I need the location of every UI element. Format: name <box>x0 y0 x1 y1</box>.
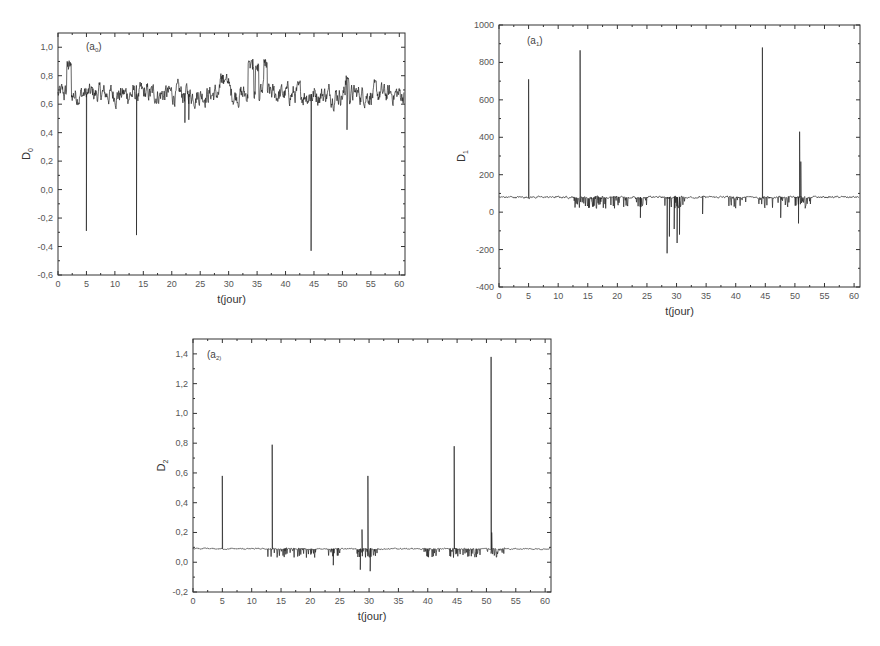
panel-label: (a2) <box>207 349 221 361</box>
x-tick-label: 5 <box>84 279 89 289</box>
x-tick-label: 50 <box>481 596 491 606</box>
y-tick-label: 200 <box>479 170 494 180</box>
y-tick-label: -0,2 <box>37 213 53 223</box>
x-tick-label: 60 <box>849 291 859 301</box>
y-tick-label: 0,4 <box>40 128 53 138</box>
x-tick-label: 20 <box>305 596 315 606</box>
chart-a2: 051015202530354045505560-0,20,00,20,40,6… <box>155 339 551 622</box>
y-tick-label: 400 <box>479 132 494 142</box>
panel-label: (a0) <box>86 41 102 53</box>
y-tick-label: 0,4 <box>175 498 188 508</box>
x-tick-label: 30 <box>672 291 682 301</box>
x-tick-label: 5 <box>526 291 531 301</box>
x-tick-label: 45 <box>760 291 770 301</box>
y-tick-label: 1000 <box>474 20 494 30</box>
x-tick-label: 60 <box>540 596 550 606</box>
x-axis-title: t(jour) <box>358 610 387 622</box>
x-tick-label: 15 <box>138 279 148 289</box>
y-axis-title: D1 <box>455 150 469 162</box>
x-tick-label: 25 <box>335 596 345 606</box>
y-tick-label: 1,4 <box>175 349 188 359</box>
y-tick-label: 0,0 <box>40 185 53 195</box>
chart-a0: 051015202530354045505560-0,6-0,4-0,20,00… <box>20 33 405 305</box>
y-tick-label: -0,4 <box>37 242 53 252</box>
x-tick-label: 10 <box>110 279 120 289</box>
y-tick-label: 0,2 <box>40 156 53 166</box>
x-tick-label: 40 <box>423 596 433 606</box>
x-tick-label: 20 <box>167 279 177 289</box>
y-tick-label: 0,6 <box>175 468 188 478</box>
panel-label: (a1) <box>527 35 543 47</box>
x-tick-label: 30 <box>224 279 234 289</box>
x-tick-label: 35 <box>393 596 403 606</box>
y-tick-label: 1,0 <box>40 42 53 52</box>
x-tick-label: 0 <box>190 596 195 606</box>
x-tick-label: 15 <box>583 291 593 301</box>
x-tick-label: 10 <box>553 291 563 301</box>
x-tick-label: 25 <box>195 279 205 289</box>
y-tick-label: -200 <box>476 245 494 255</box>
figure: 051015202530354045505560-0,6-0,4-0,20,00… <box>0 0 880 646</box>
x-tick-label: 45 <box>309 279 319 289</box>
y-axis-title: D2 <box>155 459 169 471</box>
x-tick-label: 0 <box>496 291 501 301</box>
y-tick-label: 0,8 <box>175 438 188 448</box>
plot-frame <box>58 33 405 275</box>
y-tick-label: 0,0 <box>175 557 188 567</box>
y-tick-label: 0,6 <box>40 99 53 109</box>
x-axis-title: t(jour) <box>217 293 246 305</box>
y-tick-label: 600 <box>479 95 494 105</box>
x-tick-label: 55 <box>819 291 829 301</box>
x-tick-label: 0 <box>55 279 60 289</box>
x-tick-label: 50 <box>790 291 800 301</box>
y-tick-label: 0,8 <box>40 71 53 81</box>
x-tick-label: 50 <box>337 279 347 289</box>
x-tick-label: 5 <box>220 596 225 606</box>
x-tick-label: 15 <box>276 596 286 606</box>
y-tick-label: 1,2 <box>175 379 188 389</box>
x-tick-label: 55 <box>511 596 521 606</box>
x-tick-label: 40 <box>731 291 741 301</box>
y-tick-label: 1,0 <box>175 408 188 418</box>
x-tick-label: 30 <box>364 596 374 606</box>
y-tick-label: 0,2 <box>175 527 188 537</box>
data-series <box>193 357 550 571</box>
x-tick-label: 10 <box>247 596 257 606</box>
x-tick-label: 55 <box>366 279 376 289</box>
x-tick-label: 40 <box>281 279 291 289</box>
x-axis-title: t(jour) <box>665 305 694 317</box>
y-tick-label: -0,2 <box>172 587 188 597</box>
x-tick-label: 45 <box>452 596 462 606</box>
y-axis-title: D0 <box>20 148 34 160</box>
x-tick-label: 20 <box>612 291 622 301</box>
y-tick-label: -0,6 <box>37 270 53 280</box>
y-tick-label: 0 <box>489 207 494 217</box>
x-tick-label: 25 <box>642 291 652 301</box>
x-tick-label: 35 <box>252 279 262 289</box>
x-tick-label: 35 <box>701 291 711 301</box>
y-tick-label: 800 <box>479 57 494 67</box>
plot-frame <box>499 25 860 287</box>
chart-a1: 051015202530354045505560-400-20002004006… <box>455 20 860 317</box>
y-tick-label: -400 <box>476 282 494 292</box>
data-series <box>499 48 859 254</box>
data-series <box>58 59 404 251</box>
x-tick-label: 60 <box>394 279 404 289</box>
